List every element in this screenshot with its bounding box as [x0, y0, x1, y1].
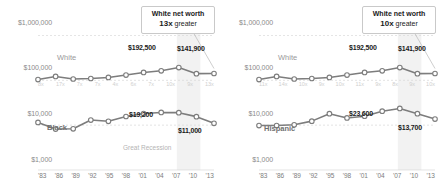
value-label-white-2007-left: $192,500	[128, 44, 156, 51]
y-tick-100000: $100,000	[2, 64, 52, 71]
callout-multiplier-right: 10x	[380, 19, 393, 28]
ratio-label: 11x	[259, 81, 267, 87]
callout-line1-left: White net worth	[147, 10, 209, 19]
series-label-white-right: White	[278, 53, 297, 62]
x-tick: '01	[139, 172, 147, 179]
series-label-black: Black	[47, 123, 67, 132]
x-tick: '95	[105, 172, 113, 179]
callout-multiplier-left: 13x	[159, 19, 172, 28]
x-tick: '10	[189, 172, 197, 179]
callout-white-net-worth-13x: White net worth 13x greater	[141, 6, 215, 34]
x-tick: '89	[72, 172, 80, 179]
x-tick: '04	[155, 172, 163, 179]
x-axis-tick-row-left: '83'86'89'92'95'98'01'04'07'10'13	[38, 172, 214, 184]
y-tick-100000-right: $100,000	[223, 64, 273, 71]
ratio-label: 10x	[336, 81, 345, 87]
ratio-label: 4x	[113, 81, 119, 87]
y-tick-1000000-right: $1,000,000	[223, 19, 273, 26]
x-tick: '89	[293, 172, 301, 179]
x-tick: '04	[376, 172, 384, 179]
x-tick: '07	[172, 172, 180, 179]
x-axis-tick-row-right: '83'86'89'92'95'98'01'04'07'10'13	[259, 172, 435, 184]
ratio-label: 17x	[56, 81, 65, 87]
great-recession-label: Great Recession	[123, 144, 171, 151]
value-label-black-2004: $19,200	[129, 111, 153, 118]
ratio-label: 7x	[148, 81, 154, 87]
ratio-label: 9x	[187, 81, 193, 87]
callout-greater-left: greater	[175, 20, 197, 27]
value-label-white-2013-left: $141,900	[177, 45, 205, 52]
x-tick: '92	[88, 172, 96, 179]
series-label-white-left: White	[57, 53, 76, 62]
chart-panel-white-vs-black: $1,000,000 $100,000 $10,000 $1,000 8x17x…	[0, 0, 221, 193]
value-label-hispanic-2007: $23,600	[349, 110, 373, 117]
ratio-label: 9x	[375, 81, 381, 87]
ratio-label: 11x	[356, 81, 364, 87]
x-tick: '07	[393, 172, 401, 179]
callout-greater-right: greater	[396, 20, 418, 27]
ratio-label: 13x	[205, 81, 214, 87]
x-tick: '01	[360, 172, 368, 179]
x-tick: '86	[55, 172, 63, 179]
x-tick: '98	[343, 172, 351, 179]
ratio-label: 10x	[426, 81, 435, 87]
callout-line2-right: 10x greater	[368, 19, 430, 29]
ratio-label: 10x	[166, 81, 175, 87]
x-tick: '95	[326, 172, 334, 179]
y-tick-1000000: $1,000,000	[2, 19, 52, 26]
ratio-label: 7x	[95, 81, 101, 87]
y-tick-10000: $10,000	[2, 110, 52, 117]
series-label-hispanic: Hispanic	[264, 124, 295, 133]
ratio-label-row-left: 8x17x7x7x4x6x7x10x9x13x	[38, 79, 214, 89]
ratio-label: 10x	[299, 81, 308, 87]
ratio-label: 7x	[77, 81, 83, 87]
x-tick: '13	[206, 172, 214, 179]
y-tick-10000-right: $10,000	[223, 110, 273, 117]
x-tick: '13	[427, 172, 435, 179]
ratio-label-row-right: 11x14x10x9x10x11x9x8x9x10x	[259, 79, 435, 89]
x-tick: '10	[410, 172, 418, 179]
value-label-white-2007-right: $192,500	[349, 44, 377, 51]
ratio-label: 9x	[319, 81, 325, 87]
callout-line1-right: White net worth	[368, 10, 430, 19]
x-tick: '83	[38, 172, 46, 179]
ratio-label: 9x	[409, 81, 415, 87]
value-label-white-2013-right: $141,900	[398, 45, 426, 52]
callout-white-net-worth-10x: White net worth 10x greater	[362, 6, 436, 34]
ratio-label: 8x	[392, 81, 398, 87]
value-label-black-2013: $11,000	[178, 127, 202, 134]
callout-line2-left: 13x greater	[147, 19, 209, 29]
chart-panel-white-vs-hispanic: $1,000,000 $100,000 $10,000 $1,000 11x14…	[221, 0, 442, 193]
x-tick: '86	[276, 172, 284, 179]
x-tick: '83	[259, 172, 267, 179]
x-tick: '98	[122, 172, 130, 179]
x-tick: '92	[309, 172, 317, 179]
ratio-label: 14x	[279, 81, 288, 87]
value-label-hispanic-2013: $13,700	[398, 124, 422, 131]
dual-line-chart-figure: $1,000,000 $100,000 $10,000 $1,000 8x17x…	[0, 0, 443, 193]
ratio-label: 6x	[130, 81, 136, 87]
y-tick-1000-right: $1,000	[223, 156, 273, 163]
ratio-label: 8x	[38, 81, 44, 87]
y-tick-1000: $1,000	[2, 156, 52, 163]
